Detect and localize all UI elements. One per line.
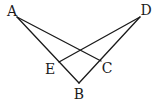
segment-d-e xyxy=(59,17,140,62)
label-a: A xyxy=(6,3,18,19)
label-e: E xyxy=(45,61,55,77)
segment-a-c xyxy=(17,17,101,61)
label-d: D xyxy=(140,2,151,18)
label-c: C xyxy=(102,60,113,76)
label-b: B xyxy=(74,86,84,102)
geometry-diagram: A D B E C xyxy=(0,0,155,102)
